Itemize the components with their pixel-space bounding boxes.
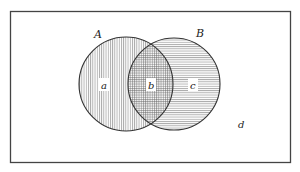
region-b-label: b [148,80,154,91]
region-c-label: c [190,80,196,91]
venn-diagram: A B a b c d [0,0,300,172]
region-a-label: a [101,80,107,91]
region-d-label: d [238,119,244,130]
set-b-label: B [195,27,204,40]
set-a-label: A [93,28,102,41]
